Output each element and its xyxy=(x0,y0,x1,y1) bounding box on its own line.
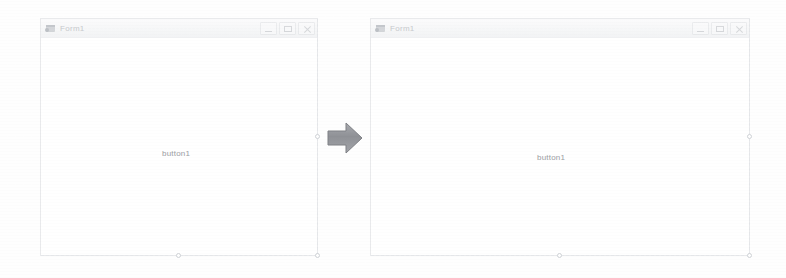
window-controls-after[interactable] xyxy=(692,22,747,35)
resize-handle-bottom-right[interactable] xyxy=(747,253,752,258)
resize-handle-bottom-right[interactable] xyxy=(315,253,320,258)
form-app-icon xyxy=(45,23,56,34)
resize-handle-mid-right[interactable] xyxy=(315,134,320,139)
form-client-area-after[interactable]: button1 xyxy=(371,38,749,255)
form-window-before[interactable]: Form1 button1 xyxy=(40,18,318,256)
titlebar-after[interactable]: Form1 xyxy=(371,19,749,38)
resize-handle-bottom-mid[interactable] xyxy=(557,253,562,258)
titlebar-before[interactable]: Form1 xyxy=(41,19,317,38)
close-button[interactable] xyxy=(298,22,315,35)
minimize-button[interactable] xyxy=(692,22,709,35)
form-window-after[interactable]: Form1 button1 xyxy=(370,18,750,256)
screenshot-stage: Form1 button1 xyxy=(0,0,786,278)
window-controls-before[interactable] xyxy=(260,22,315,35)
minimize-button[interactable] xyxy=(260,22,277,35)
maximize-button[interactable] xyxy=(279,22,296,35)
close-button[interactable] xyxy=(730,22,747,35)
maximize-button[interactable] xyxy=(711,22,728,35)
form-app-icon xyxy=(375,23,386,34)
form-button1[interactable]: button1 xyxy=(162,150,190,158)
window-title: Form1 xyxy=(60,19,260,38)
form-client-area-before[interactable]: button1 xyxy=(41,38,317,255)
form-button1[interactable]: button1 xyxy=(537,154,565,162)
window-title: Form1 xyxy=(390,19,692,38)
resize-handle-mid-right[interactable] xyxy=(747,134,752,139)
resize-handle-bottom-mid[interactable] xyxy=(176,253,181,258)
transition-arrow xyxy=(325,119,365,157)
